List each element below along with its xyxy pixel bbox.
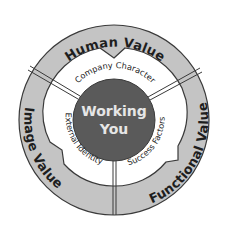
diagram-canvas: Working You Human Value Image Value Func… [0,0,229,236]
working-you-diagram: Working You Human Value Image Value Func… [0,0,229,236]
center-label-line2: You [99,121,128,137]
center-label-line1: Working [81,103,147,119]
